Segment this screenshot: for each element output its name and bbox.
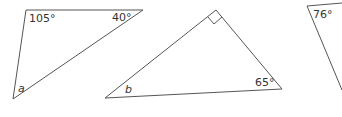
angle-label-65: 65° — [255, 76, 275, 89]
right-angle-marker-icon — [208, 17, 222, 24]
angle-label-40: 40° — [112, 11, 132, 24]
unknown-angle-a: a — [18, 82, 25, 95]
triangle-1: 105° 40° a — [13, 10, 143, 99]
angle-label-76: 76° — [313, 8, 333, 21]
angle-label-105: 105° — [29, 12, 56, 25]
triangle-angles-diagram: 105° 40° a b 65° 76° — [0, 0, 342, 117]
triangle-3: 76° — [307, 3, 342, 90]
unknown-angle-b: b — [125, 83, 132, 96]
triangle-2: b 65° — [105, 10, 282, 98]
